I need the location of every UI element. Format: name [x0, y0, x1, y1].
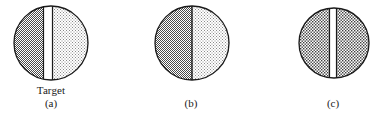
region-right-a [53, 3, 90, 83]
target-strip-c [329, 3, 337, 83]
caption-b: (b) [150, 97, 232, 110]
caption-a: (a) [8, 97, 94, 110]
disc-b [153, 3, 231, 83]
disc-a [12, 3, 90, 83]
disc-b-graphic [153, 3, 231, 83]
disc-c-graphic [297, 3, 371, 83]
figure-three-discs: Target (a) (b) [0, 0, 382, 117]
caption-c: (c) [294, 97, 372, 110]
target-strip-a [43, 3, 53, 83]
target-label: Target [8, 84, 94, 97]
region-left-b [153, 3, 192, 83]
disc-a-graphic [12, 3, 90, 83]
region-right-b [192, 3, 231, 83]
disc-c [297, 3, 371, 83]
